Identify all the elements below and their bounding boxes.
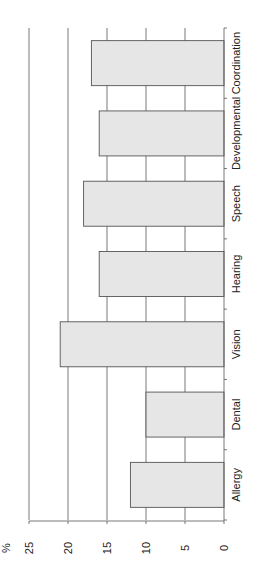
value-tick-label: 0 — [218, 545, 230, 551]
bars — [60, 41, 224, 508]
bar-speech — [84, 181, 224, 226]
value-tick-label: 20 — [62, 542, 74, 554]
bar-coordination — [91, 41, 224, 86]
category-label: Allergy — [230, 468, 242, 502]
category-label: Speech — [230, 185, 242, 222]
category-axis: AllergyDentalVisionHearingSpeechDevelopm… — [224, 28, 242, 520]
category-label: Dental — [230, 399, 242, 431]
value-tick-label: 15 — [101, 542, 113, 554]
bar-vision — [60, 322, 224, 367]
value-tick-label: 5 — [179, 545, 191, 551]
category-label: Vision — [230, 329, 242, 359]
axis-unit-label: % — [0, 543, 12, 553]
category-label: Hearing — [230, 255, 242, 294]
bar-allergy — [130, 462, 224, 507]
bar-dental — [146, 392, 224, 437]
bar-developmental — [99, 111, 224, 156]
value-tick-label: 10 — [140, 542, 152, 554]
category-label: Developmental — [230, 97, 242, 170]
category-label: Coordination — [230, 32, 242, 94]
bar-hearing — [99, 252, 224, 297]
bar-chart: 0510152025 AllergyDentalVisionHearingSpe… — [0, 0, 258, 585]
value-tick-label: 25 — [23, 542, 35, 554]
